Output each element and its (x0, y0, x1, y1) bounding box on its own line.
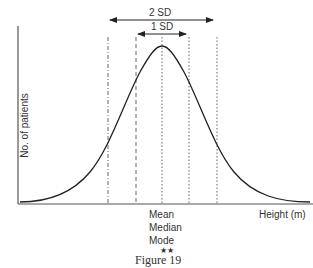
annotation-2sd: 2 SD (149, 7, 171, 18)
label-mode: Mode (149, 235, 174, 246)
y-axis-label: No. of patients (19, 86, 30, 166)
annotation-1sd: 1 SD (151, 21, 173, 32)
label-mean: Mean (149, 209, 174, 220)
gaussian-curve (20, 46, 310, 202)
x-axis-label: Height (m) (259, 209, 306, 220)
figure-caption: Figure 19 (135, 253, 181, 268)
label-median: Median (149, 222, 182, 233)
